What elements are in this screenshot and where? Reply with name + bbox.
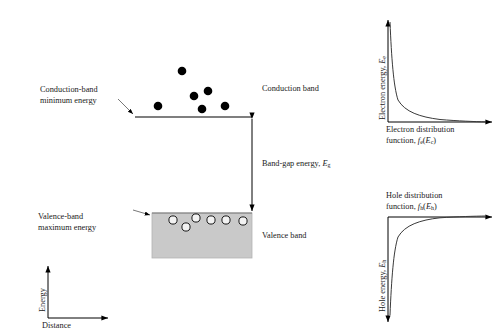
- band-gap-energy-label: Band-gap energy, Eg: [262, 159, 330, 171]
- valence-band-label: Valence band: [262, 231, 306, 242]
- electron-dist-line2-pre: function,: [386, 136, 418, 145]
- valence-leader-arrow: [133, 210, 150, 215]
- electron-dist-line1: Electron distribution: [386, 125, 454, 134]
- band-gap-subscript: g: [327, 162, 330, 168]
- electron-dots: [154, 67, 230, 114]
- electron-energy-text: Electron energy,: [378, 64, 387, 120]
- main-axes: [48, 266, 108, 318]
- hole-circle: [192, 214, 200, 222]
- hole-dist-line1: Hole distribution: [386, 191, 442, 200]
- hole-energy-subscript: h: [381, 260, 387, 263]
- electron-energy-axis-label: Electron energy, Ee: [378, 56, 390, 120]
- electron-energy-subscript: e: [381, 56, 387, 59]
- electron-dot: [154, 102, 163, 111]
- electron-dot: [190, 92, 199, 101]
- conduction-min-energy-label: Conduction-band minimum energy: [40, 85, 98, 106]
- hole-energy-symbol: E: [378, 263, 387, 268]
- energy-axis-label: Energy: [38, 288, 49, 312]
- electron-dist-paren-close: ): [433, 136, 436, 145]
- hole-distribution-plot: [388, 216, 492, 322]
- electron-dot: [204, 87, 213, 96]
- valence-band-rect: [152, 213, 252, 258]
- conduction-leader-arrow: [118, 99, 133, 114]
- hole-distribution-function-label: Hole distributionfunction, fh(Eh): [386, 191, 442, 213]
- hole-circle: [207, 216, 215, 224]
- band-diagram-figure: Conduction-band minimum energy Conductio…: [0, 0, 500, 334]
- electron-energy-symbol: E: [378, 59, 387, 64]
- band-gap-text: Band-gap energy,: [262, 159, 322, 168]
- electron-distribution-plot: [388, 20, 492, 122]
- hole-circle: [169, 216, 177, 224]
- electron-dot: [178, 67, 187, 76]
- conduction-band-label: Conduction band: [262, 84, 319, 95]
- distance-axis-label: Distance: [42, 321, 71, 332]
- electron-dot: [221, 102, 230, 111]
- hole-dist-line2-pre: function,: [386, 202, 418, 211]
- hole-circle: [239, 217, 247, 225]
- electron-distribution-curve: [390, 22, 486, 122]
- valence-max-energy-label: Valence-band maximum energy: [38, 212, 96, 233]
- figure-canvas: [0, 0, 500, 334]
- hole-circle: [182, 223, 190, 231]
- hole-distribution-curve: [390, 216, 486, 315]
- electron-dot: [198, 105, 207, 114]
- hole-dist-paren-close: ): [434, 202, 437, 211]
- hole-energy-text: Hole energy,: [378, 268, 387, 312]
- hole-energy-axis-label: Hole energy, Eh: [378, 260, 390, 312]
- electron-distribution-function-label: Electron distributionfunction, fe(Ec): [386, 125, 454, 147]
- hole-circle: [222, 216, 230, 224]
